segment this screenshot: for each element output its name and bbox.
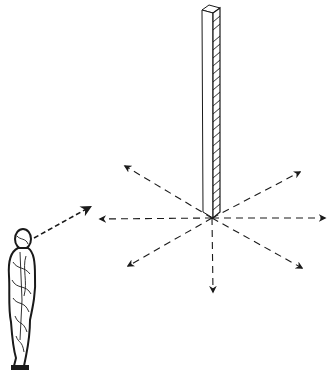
arrow-down-left [128, 218, 212, 266]
arrow-down-right [212, 218, 302, 268]
arrow-up-left [125, 166, 212, 218]
arrow-up-right [212, 172, 300, 218]
arrow-left [100, 218, 212, 219]
gaze-arrow [34, 207, 90, 238]
pillar [202, 5, 220, 218]
person-figure [9, 229, 35, 369]
figure-drawing [0, 0, 330, 375]
arrow-down [212, 218, 213, 292]
illustration [0, 0, 330, 375]
